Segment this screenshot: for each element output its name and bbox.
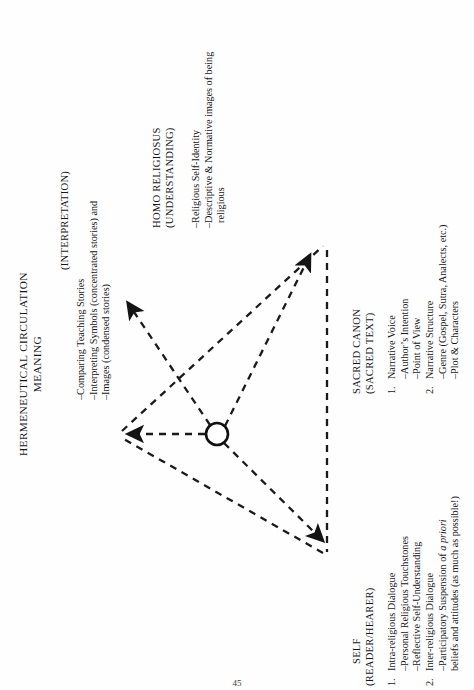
node-text-label: –Plot & Characters (449, 301, 460, 379)
node-text-label: Narrative Voice (386, 315, 397, 379)
node-self-row: 2.Inter-religious Dialogue (424, 496, 437, 686)
node-self-row: beliefs and attitudes (as much as possib… (449, 496, 462, 686)
hub-spokes (139, 265, 315, 533)
node-text-row: –Genre (Gospel, Sutra, Analects, etc.) (437, 225, 450, 394)
node-text-title: SACRED CANON (SACRED TEXT) (350, 309, 376, 394)
node-understanding-title-line1: HOMO RELIGIOSUS (151, 127, 162, 228)
figure-title-line2: MEANING (30, 272, 44, 456)
node-understanding-item-2: –Descriptive & Normative images of being (203, 52, 216, 228)
node-text-row: 2.Narrative Structure (424, 225, 437, 394)
node-text-num: 2. (424, 379, 437, 394)
node-text-label: –Point of View (411, 318, 422, 379)
interpretation-item-1: –Comparing Teaching Stories (75, 201, 88, 400)
node-self-label: –Reflective Self-Understanding (411, 542, 422, 671)
node-text-label: –Genre (Gospel, Sutra, Analects, etc.) (437, 225, 448, 379)
node-self-row: –Personal Religious Touchstones (399, 496, 412, 686)
circulation-hub-circle (206, 423, 228, 445)
node-self-row: –Reflective Self-Understanding (411, 496, 424, 686)
node-text-row: –Plot & Characters (449, 225, 462, 394)
node-understanding-title-line2: (UNDERSTANDING) (163, 127, 176, 228)
node-understanding-item-3: religious (215, 52, 228, 228)
node-text-label: –Author’s Intention (399, 299, 410, 379)
interpretation-items: –Comparing Teaching Stories –Interpretin… (75, 201, 113, 400)
triangle-outline (122, 246, 327, 553)
spoke-to-self (224, 443, 315, 533)
node-text-row: 1.Narrative Voice (386, 225, 399, 394)
figure-title: HERMENEUTICAL CIRCULATION MEANING (16, 272, 44, 456)
node-text-label: Narrative Structure (424, 301, 435, 379)
node-understanding-title: HOMO RELIGIOSUS (UNDERSTANDING) (150, 127, 176, 228)
node-self-row: –Participatory Suspension of a priori (437, 496, 450, 686)
node-self-label: beliefs and attitudes (as much as possib… (449, 496, 460, 671)
node-self-label: –Personal Religious Touchstones (399, 536, 410, 671)
node-text-row: –Point of View (411, 225, 424, 394)
interpretation-label-group: (INTERPRETATION) (58, 171, 71, 270)
node-text-entries: 1.Narrative Voice –Author’s Intention –P… (386, 225, 462, 394)
node-understanding-items: –Religious Self-Identity –Descriptive & … (190, 52, 228, 228)
node-self-label: –Participatory Suspension of (437, 551, 448, 671)
interpretation-item-3: –Images (condensed stories) (100, 201, 113, 400)
figure-page: HERMENEUTICAL CIRCULATION MEANING (INTER… (0, 0, 474, 690)
figure-title-line1: HERMENEUTICAL CIRCULATION (17, 272, 29, 456)
node-text-title-line2: (SACRED TEXT) (363, 309, 376, 394)
node-self-title: SELF (READER/HEARER) (350, 588, 376, 687)
interpretation-item-2: –Interpreting Symbols (concentrated stor… (88, 201, 101, 400)
node-self-entries: 1.Intra-religious Dialogue –Personal Rel… (386, 496, 462, 686)
node-self-row: 1.Intra-religious Dialogue (386, 496, 399, 686)
node-self-label: Intra-religious Dialogue (386, 573, 397, 671)
spoke-to-text (225, 265, 305, 426)
interpretation-label: (INTERPRETATION) (59, 171, 70, 270)
node-text-row: –Author’s Intention (399, 225, 412, 394)
node-self-title-line2: (READER/HEARER) (363, 588, 376, 687)
page-number: 45 (0, 678, 474, 688)
node-understanding-item-1: –Religious Self-Identity (190, 52, 203, 228)
node-self-label-italic: a priori (437, 519, 448, 550)
node-text-num: 1. (386, 379, 399, 394)
node-text-title-line1: SACRED CANON (351, 309, 362, 394)
node-self-label: Inter-religious Dialogue (424, 573, 435, 671)
